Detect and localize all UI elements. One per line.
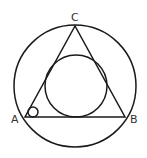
outer-circle [14,25,136,147]
vertex-label-a: A [11,113,19,126]
vertex-label-b: B [130,113,138,126]
angle-mark-circle-a [28,107,38,117]
triangle-abc [25,26,125,117]
vertex-label-c: C [71,11,79,24]
inner-circle [45,55,107,117]
geometry-diagram: C A B [0,0,147,158]
